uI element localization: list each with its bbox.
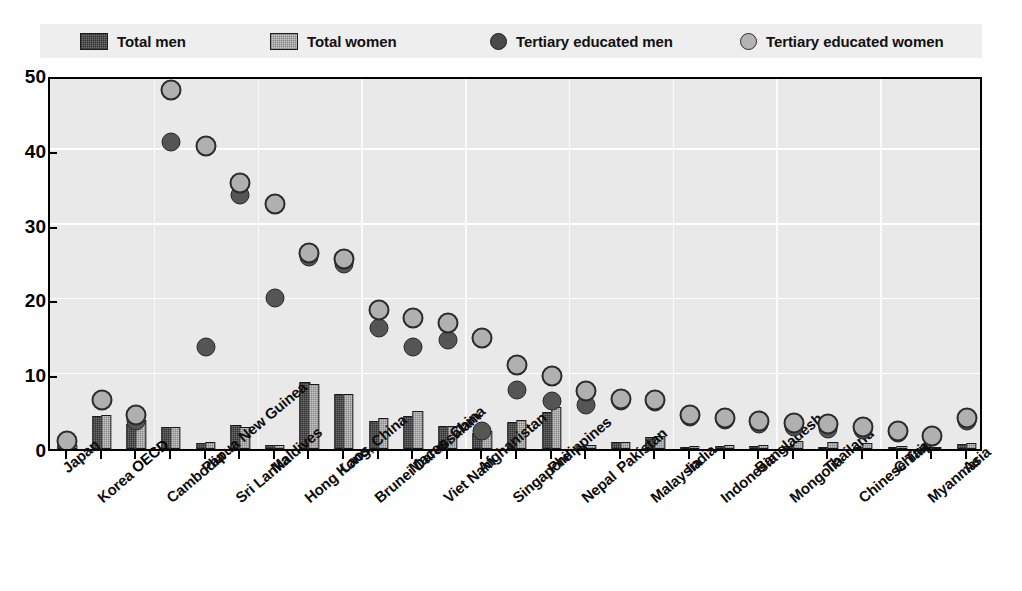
dot-tertiary-women bbox=[230, 173, 251, 194]
dot-tertiary-men bbox=[265, 288, 284, 307]
dot-tertiary-women bbox=[645, 389, 666, 410]
bar-pair bbox=[819, 442, 838, 449]
y-axis-tick bbox=[48, 301, 57, 303]
dot-tertiary-men bbox=[162, 133, 181, 152]
x-axis-category-label: Korea bbox=[94, 466, 137, 506]
x-axis-tick bbox=[792, 451, 794, 459]
y-axis-tick-label: 50 bbox=[0, 66, 46, 88]
y-axis-tick-label: 10 bbox=[0, 365, 46, 387]
x-axis-tick bbox=[584, 451, 586, 459]
dot-tertiary-women bbox=[714, 407, 735, 428]
bar-pair bbox=[680, 446, 699, 449]
tertiary-women-dot-icon bbox=[740, 33, 757, 50]
x-axis-tick bbox=[100, 451, 102, 459]
bar-pair bbox=[542, 407, 561, 449]
y-axis-tick bbox=[48, 227, 57, 229]
dot-tertiary-women bbox=[299, 243, 320, 264]
dot-tertiary-men bbox=[369, 318, 388, 337]
legend-item-tertiary-men: Tertiary educated men bbox=[490, 33, 673, 50]
bar-pair bbox=[715, 445, 734, 449]
category-group bbox=[638, 79, 673, 449]
x-axis-tick bbox=[169, 451, 171, 459]
bar-total-women bbox=[724, 445, 734, 449]
category-group bbox=[880, 79, 915, 449]
dot-tertiary-women bbox=[334, 249, 355, 270]
dot-tertiary-women bbox=[472, 328, 493, 349]
category-group bbox=[327, 79, 362, 449]
legend-label: Total men bbox=[117, 33, 186, 50]
x-axis-tick bbox=[238, 451, 240, 459]
x-axis-tick bbox=[723, 451, 725, 459]
y-axis-tick-label: 30 bbox=[0, 216, 46, 238]
category-group bbox=[707, 79, 742, 449]
legend-item-total-women: Total women bbox=[270, 33, 396, 50]
plot-inner bbox=[50, 79, 980, 449]
y-axis-tick-label: 40 bbox=[0, 141, 46, 163]
chart-legend: Total menTotal womenTertiary educated me… bbox=[40, 24, 982, 58]
dot-tertiary-women bbox=[161, 79, 182, 100]
legend-label: Tertiary educated men bbox=[516, 33, 673, 50]
category-group bbox=[603, 79, 638, 449]
category-group bbox=[915, 79, 950, 449]
category-group bbox=[396, 79, 431, 449]
category-group bbox=[742, 79, 777, 449]
x-axis-tick bbox=[930, 451, 932, 459]
dot-tertiary-women bbox=[57, 430, 78, 449]
dot-tertiary-women bbox=[783, 412, 804, 433]
legend-label: Total women bbox=[307, 33, 396, 50]
dot-tertiary-women bbox=[126, 405, 147, 426]
category-group bbox=[949, 79, 980, 449]
dot-tertiary-men bbox=[404, 337, 423, 356]
plot-area bbox=[48, 77, 982, 451]
dot-tertiary-women bbox=[887, 421, 908, 442]
dot-tertiary-women bbox=[403, 308, 424, 329]
category-group bbox=[188, 79, 223, 449]
category-group bbox=[569, 79, 604, 449]
category-group bbox=[223, 79, 258, 449]
category-group bbox=[119, 79, 154, 449]
category-group bbox=[50, 79, 85, 449]
dot-tertiary-women bbox=[852, 416, 873, 437]
x-axis-tick bbox=[377, 451, 379, 459]
dot-tertiary-women bbox=[368, 299, 389, 320]
bar-total-women bbox=[551, 407, 561, 449]
x-axis-tick bbox=[653, 451, 655, 459]
bar-pair bbox=[404, 411, 423, 449]
dot-tertiary-women bbox=[956, 408, 977, 429]
dot-tertiary-women bbox=[818, 414, 839, 435]
x-axis-category-label: Nepal bbox=[578, 467, 619, 506]
category-group bbox=[500, 79, 535, 449]
dot-tertiary-women bbox=[541, 365, 562, 386]
category-group bbox=[811, 79, 846, 449]
dot-tertiary-women bbox=[679, 405, 700, 426]
category-group bbox=[431, 79, 466, 449]
dot-tertiary-men bbox=[507, 380, 526, 399]
bar-pair bbox=[957, 443, 976, 449]
tertiary-men-dot-icon bbox=[490, 33, 507, 50]
dot-tertiary-men bbox=[542, 392, 561, 411]
y-axis-tick bbox=[48, 152, 57, 154]
category-group bbox=[776, 79, 811, 449]
bar-pair bbox=[265, 445, 284, 449]
dot-tertiary-women bbox=[610, 388, 631, 409]
bar-total-women bbox=[170, 427, 180, 449]
bar-total-women bbox=[413, 411, 423, 449]
dot-tertiary-women bbox=[91, 389, 112, 410]
y-axis-tick-label: 0 bbox=[0, 440, 46, 462]
y-axis-tick-label: 20 bbox=[0, 290, 46, 312]
bar-total-women bbox=[343, 394, 353, 449]
category-group bbox=[465, 79, 500, 449]
category-group bbox=[673, 79, 708, 449]
chart-root: Total menTotal womenTertiary educated me… bbox=[0, 0, 1022, 591]
category-group bbox=[85, 79, 120, 449]
y-axis-tick bbox=[48, 376, 57, 378]
dot-tertiary-women bbox=[506, 355, 527, 376]
bar-total-women bbox=[101, 415, 111, 449]
total-women-swatch-icon bbox=[270, 33, 298, 50]
x-axis-tick bbox=[861, 451, 863, 459]
dot-tertiary-women bbox=[576, 381, 597, 402]
bar-pair bbox=[196, 442, 215, 449]
total-men-swatch-icon bbox=[80, 33, 108, 50]
bar-pair bbox=[749, 445, 768, 449]
dot-tertiary-women bbox=[264, 193, 285, 214]
